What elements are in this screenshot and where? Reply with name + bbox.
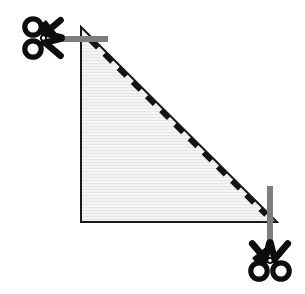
cutting-diagram-svg <box>0 0 305 294</box>
guide-bar-vertical <box>267 186 273 244</box>
figure-canvas <box>0 0 305 294</box>
